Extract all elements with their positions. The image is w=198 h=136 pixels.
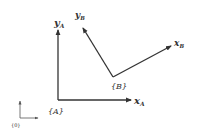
frame-b-y-axis	[83, 28, 113, 77]
frames-diagram: {0} yA xA {A} yB xB {B}	[0, 0, 198, 136]
frame-0: {0}	[11, 101, 38, 128]
frame-a-label: {A}	[48, 107, 64, 116]
frame-b-label: {B}	[111, 82, 127, 91]
frame-a: yA xA {A}	[48, 17, 145, 116]
frame-a-x-label: xA	[133, 95, 145, 107]
frame-b-y-label: yB	[74, 10, 85, 21]
frame-b-x-axis	[113, 46, 171, 77]
frame-b-x-label: xB	[173, 38, 184, 49]
frame-b: yB xB {B}	[74, 10, 184, 91]
frame-a-y-label: yA	[53, 17, 65, 29]
frame-0-label: {0}	[11, 122, 21, 128]
